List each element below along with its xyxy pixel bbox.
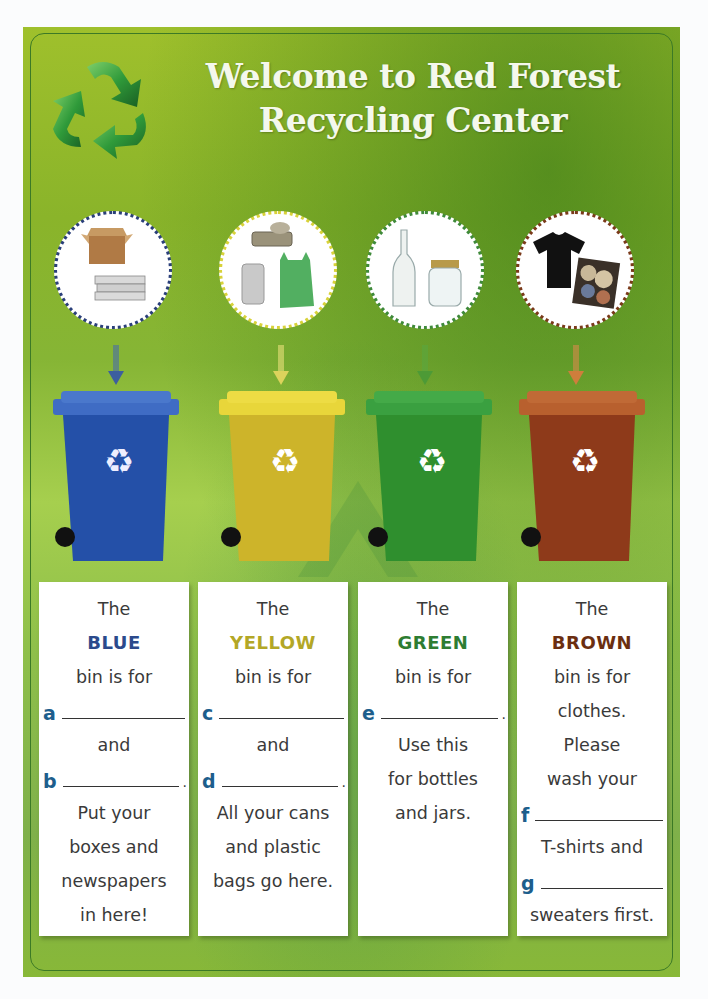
answer-line[interactable]: [222, 785, 338, 787]
blue-bin-card: The BLUE bin is for a and b . Put your b…: [39, 582, 189, 936]
blue-bin: ♻: [53, 387, 183, 567]
sardine-can-icon: [252, 222, 292, 246]
color-label-blue: BLUE: [39, 626, 189, 660]
page-title: Welcome to Red Forest Recycling Center: [163, 55, 663, 143]
recycling-poster: Welcome to Red Forest Recycling Center: [23, 27, 680, 977]
newspapers-icon: [95, 276, 145, 300]
color-label-yellow: YELLOW: [198, 626, 348, 660]
recycle-icon: ♻: [104, 441, 134, 481]
yellow-bin: ♻: [219, 387, 349, 567]
blue-arrow-down-icon: [106, 345, 126, 387]
glass-jar-icon: [429, 260, 461, 306]
brown-bin: ♻: [519, 387, 649, 567]
yellow-arrow-down-icon: [271, 345, 291, 387]
answer-line[interactable]: [63, 785, 179, 787]
green-bin-card: The GREEN bin is for e . Use this for bo…: [358, 582, 508, 936]
blank-c[interactable]: c: [198, 694, 348, 728]
blank-d[interactable]: d .: [198, 762, 348, 796]
glass-bottle-icon: [393, 230, 415, 306]
blank-b[interactable]: b .: [39, 762, 189, 796]
blank-f[interactable]: f: [517, 796, 667, 830]
yellow-bin-card: The YELLOW bin is for c and d . All your…: [198, 582, 348, 936]
green-arrow-down-icon: [415, 345, 435, 387]
answer-line[interactable]: [219, 717, 344, 719]
answer-line[interactable]: [541, 887, 663, 889]
recycle-icon: ♻: [270, 441, 300, 481]
sweaters-photo-icon: [572, 257, 620, 308]
recycle-logo-icon: [47, 55, 159, 159]
answer-line[interactable]: [535, 819, 663, 821]
recycle-icon: ♻: [570, 441, 600, 481]
plastic-bag-icon: [280, 252, 314, 308]
color-label-brown: BROWN: [517, 626, 667, 660]
yellow-items-circle: [219, 211, 337, 329]
brown-bin-card: The BROWN bin is for clothes. Please was…: [517, 582, 667, 936]
cardboard-box-icon: [81, 228, 133, 264]
brown-items-circle: [516, 211, 634, 329]
blank-e[interactable]: e .: [358, 694, 508, 728]
answer-line[interactable]: [381, 717, 498, 719]
recycle-icon: ♻: [417, 441, 447, 481]
green-items-circle: [366, 211, 484, 329]
answer-line[interactable]: [62, 717, 185, 719]
blue-items-circle: [54, 211, 172, 329]
brown-arrow-down-icon: [566, 345, 586, 387]
green-bin: ♻: [366, 387, 496, 567]
blank-g[interactable]: g: [517, 864, 667, 898]
soda-can-icon: [242, 264, 264, 304]
blank-a[interactable]: a: [39, 694, 189, 728]
color-label-green: GREEN: [358, 626, 508, 660]
